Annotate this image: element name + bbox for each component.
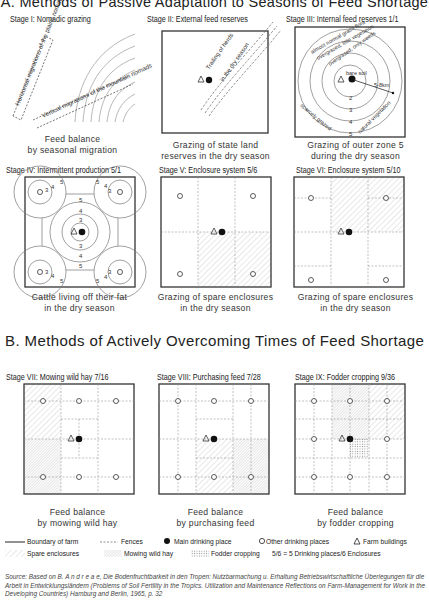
svg-text:3: 3 bbox=[45, 269, 49, 275]
caption-line: Feed balance bbox=[148, 507, 283, 518]
stage-4-diagram: 3 4 5 3 4 5 3 4 5 3 4 5 3 4 5 3 4 5 bbox=[24, 176, 136, 288]
cross-hatch-icon bbox=[191, 550, 209, 557]
caption-line: Grazing of outer zone 5 bbox=[288, 140, 423, 151]
svg-text:scarcely grazed: scarcely grazed bbox=[299, 102, 332, 131]
svg-text:3: 3 bbox=[79, 217, 83, 223]
svg-text:5: 5 bbox=[79, 263, 83, 269]
stage-6-diagram bbox=[293, 176, 405, 288]
svg-text:3: 3 bbox=[108, 269, 112, 275]
stage-5-diagram bbox=[160, 176, 272, 288]
dense-hatch-icon bbox=[104, 550, 122, 557]
main-drinking-place-icon bbox=[206, 77, 212, 83]
stage-2-label: Stage II: External feed reserves bbox=[147, 14, 248, 24]
legend-spare-enclosures: Spare enclosures bbox=[27, 549, 79, 558]
svg-text:4: 4 bbox=[349, 119, 353, 125]
svg-text:5: 5 bbox=[96, 179, 100, 185]
stage-9-diagram bbox=[294, 383, 408, 495]
svg-text:5: 5 bbox=[349, 131, 353, 137]
caption-line: Grazing of state land bbox=[148, 140, 283, 151]
stage-5-label: Stage V: Enclosure system 5/6 bbox=[159, 165, 257, 175]
caption-line: by purchasing feed bbox=[148, 518, 283, 529]
stage-9-label: Stage IX: Fodder cropping 9/36 bbox=[295, 372, 395, 382]
svg-text:4: 4 bbox=[79, 253, 83, 259]
svg-text:3: 3 bbox=[349, 107, 353, 113]
filled-circle-icon bbox=[163, 537, 171, 545]
stage-6-caption: Grazing of spare enclosures in the dry s… bbox=[288, 292, 423, 313]
stage-4-label: Stage IV: Intermittent production 5/1 bbox=[6, 165, 121, 175]
caption-line: by seasonal migration bbox=[5, 145, 140, 156]
vertical-migration-label: Vertical migrations of the mountain noma… bbox=[40, 62, 153, 120]
svg-text:3: 3 bbox=[79, 243, 83, 249]
stage-8-label: Stage VIII: Purchasing feed 7/28 bbox=[157, 372, 261, 382]
svg-text:4: 4 bbox=[51, 184, 55, 190]
solid-line-icon bbox=[5, 539, 25, 545]
legend-boundary: Boundary of farm bbox=[27, 537, 78, 546]
svg-text:3: 3 bbox=[45, 187, 49, 193]
stage-8-caption: Feed balance by purchasing feed bbox=[148, 507, 283, 528]
stage-8-diagram bbox=[158, 383, 272, 495]
caption-line: during the dry season bbox=[288, 151, 423, 162]
caption-line: Cattle living off their fat bbox=[12, 292, 147, 303]
open-circle-icon bbox=[258, 537, 266, 545]
farm-building-icon bbox=[338, 76, 344, 82]
section-b-title: B. Methods of Actively Overcoming Times … bbox=[5, 332, 424, 349]
stage-2-caption: Grazing of state land reserves in the dr… bbox=[148, 140, 283, 161]
svg-text:4: 4 bbox=[51, 273, 55, 279]
caption-line: Feed balance bbox=[5, 134, 140, 145]
caption-line: Feed balance bbox=[10, 507, 145, 518]
stage-3-label: Stage III: Internal feed reserves 1/1 bbox=[286, 14, 399, 24]
stage-3-caption: Grazing of outer zone 5 during the dry s… bbox=[288, 140, 423, 161]
svg-text:5: 5 bbox=[96, 278, 100, 284]
caption-line: by fodder cropping bbox=[288, 518, 423, 529]
triangle-icon bbox=[353, 537, 361, 545]
stage-7-caption: Feed balance by mowing wild hay bbox=[10, 507, 145, 528]
caption-line: in the dry season bbox=[12, 303, 147, 314]
stage-6-label: Stage VI: Enclosure system 5/10 bbox=[296, 165, 400, 175]
dashed-line-icon bbox=[100, 539, 118, 545]
figure-title: A. Methods of Passive Adaptation to Seas… bbox=[0, 0, 429, 10]
svg-text:3: 3 bbox=[108, 188, 112, 194]
stage-5-caption: Grazing of spare enclosures in the dry s… bbox=[148, 292, 283, 313]
caption-line: Grazing of spare enclosures bbox=[148, 292, 283, 303]
caption-line: in the dry season bbox=[288, 303, 423, 314]
caption-line: in the dry season bbox=[148, 303, 283, 314]
stage-1-caption: Feed balance by seasonal migration bbox=[5, 134, 140, 155]
legend-mowing-wild-hay: Mowing wild hay bbox=[124, 549, 173, 558]
main-drinking-place-icon bbox=[349, 76, 356, 83]
source-citation: Source: Based on B. A n d r e a e, Die B… bbox=[5, 573, 429, 599]
legend-other-drinking: Other drinking places bbox=[266, 537, 329, 546]
svg-text:natural vegetation: natural vegetation bbox=[356, 100, 391, 135]
stage-7-diagram bbox=[23, 383, 137, 495]
stage-3-diagram: bare soil 5-8km 2 3 4 5 overgrazed, only… bbox=[294, 26, 406, 138]
stage-1-diagram: Horizontal migrations of the plains noma… bbox=[5, 24, 140, 129]
stage-2-diagram: Trailing of herds in the dry season bbox=[161, 30, 275, 136]
svg-text:2: 2 bbox=[349, 95, 353, 101]
stage-9-caption: Feed balance by fodder cropping bbox=[288, 507, 423, 528]
svg-text:bare soil: bare soil bbox=[346, 70, 367, 76]
legend-ratio-explanation: 5/6 = 5 Drinking places/6 Enclosures bbox=[272, 549, 381, 558]
svg-text:4: 4 bbox=[79, 208, 83, 214]
farm-building-icon bbox=[198, 76, 204, 82]
legend-fences: Fences bbox=[121, 537, 143, 546]
caption-line: by mowing wild hay bbox=[10, 518, 145, 529]
legend-main-drinking: Main drinking place bbox=[174, 537, 232, 546]
legend-fodder-cropping: Fodder cropping bbox=[211, 549, 260, 558]
stage-7-label: Stage VII: Mowing wild hay 7/16 bbox=[6, 372, 109, 382]
caption-line: Grazing of spare enclosures bbox=[288, 292, 423, 303]
stage-4-caption: Cattle living off their fat in the dry s… bbox=[12, 292, 147, 313]
legend-farm-buildings: Farm buildings bbox=[363, 537, 407, 546]
caption-line: Feed balance bbox=[288, 507, 423, 518]
svg-text:5-8km: 5-8km bbox=[374, 82, 390, 88]
caption-line: reserves in the dry season bbox=[148, 151, 283, 162]
diagonal-hatch-icon bbox=[5, 550, 25, 557]
